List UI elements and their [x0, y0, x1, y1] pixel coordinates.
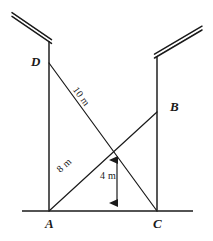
ladder-long-dc [49, 63, 157, 211]
left-top-bar-icon [12, 13, 52, 44]
vertex-label-d: D [31, 55, 40, 68]
vertex-label-b: B [170, 100, 179, 113]
measure-label-crossing-height: 4 m [100, 171, 116, 181]
vertex-label-c: C [153, 217, 162, 230]
crossed-ladders-figure [0, 0, 213, 241]
vertex-label-a: A [45, 217, 54, 230]
right-top-bar-icon [155, 26, 203, 58]
diagram-canvas: D B A C 10 m 8 m 4 m [0, 0, 213, 241]
